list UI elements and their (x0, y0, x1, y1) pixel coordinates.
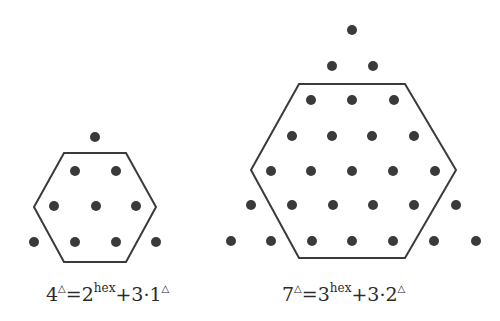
dot (70, 166, 80, 176)
dot (471, 236, 481, 246)
dot (246, 200, 256, 210)
large-figure-equation: 7△=3hex+3·2△ (282, 285, 405, 304)
dot (430, 166, 440, 176)
dot (151, 237, 161, 247)
eq-hex-base: 2 (82, 283, 94, 305)
dot (347, 166, 357, 176)
dot (368, 200, 378, 210)
small-triangular-number-figure (29, 132, 161, 262)
dot (368, 61, 378, 71)
dot (287, 200, 297, 210)
dot (451, 200, 461, 210)
dot (266, 166, 276, 176)
dot (388, 236, 398, 246)
dot (307, 236, 317, 246)
dot (429, 236, 439, 246)
eq-plus-term: +3· (115, 283, 149, 305)
dot (327, 61, 337, 71)
dot (409, 200, 419, 210)
dot (287, 131, 297, 141)
triangle-superscript-icon: △ (162, 283, 170, 294)
eq-sign: = (66, 283, 82, 305)
dot (266, 236, 276, 246)
dot (388, 166, 398, 176)
dot (91, 201, 101, 211)
dot (49, 201, 59, 211)
dot (226, 236, 236, 246)
dot (347, 25, 357, 35)
eq-tri-base: 1 (149, 283, 161, 305)
dot (327, 131, 337, 141)
eq-sign: = (302, 283, 318, 305)
large-triangular-number-figure (226, 25, 481, 258)
dot (347, 236, 357, 246)
dot (111, 166, 121, 176)
triangle-superscript-icon: △ (398, 283, 406, 294)
dot (347, 95, 357, 105)
dot (306, 166, 316, 176)
eq-hex-base: 3 (318, 283, 330, 305)
triangle-superscript-icon: △ (58, 283, 66, 294)
hex-superscript: hex (94, 281, 116, 295)
dot (409, 131, 419, 141)
diagram-canvas (0, 0, 500, 321)
small-figure-equation: 4△=2hex+3·1△ (46, 285, 169, 304)
eq-tri-base: 2 (385, 283, 397, 305)
dot (328, 200, 338, 210)
eq-plus-term: +3· (351, 283, 385, 305)
dot (131, 201, 141, 211)
dot (111, 237, 121, 247)
dot (367, 131, 377, 141)
eq-lhs: 4 (46, 283, 58, 305)
dot (70, 237, 80, 247)
dot (306, 95, 316, 105)
hex-superscript: hex (330, 281, 352, 295)
triangle-superscript-icon: △ (294, 283, 302, 294)
dot (29, 237, 39, 247)
dot (389, 95, 399, 105)
dot (90, 132, 100, 142)
eq-lhs: 7 (282, 283, 294, 305)
